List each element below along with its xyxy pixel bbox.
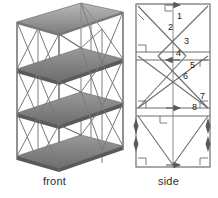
label-1: 1 <box>177 12 182 21</box>
caption-side: side <box>158 175 179 187</box>
hatch-right-icon <box>200 6 208 14</box>
vertical-arrow-markers <box>134 118 211 152</box>
label-4: 4 <box>176 49 181 58</box>
label-3: 3 <box>184 37 189 46</box>
label-7: 7 <box>200 92 205 101</box>
figure-container: 1 2 3 4 5 6 7 8 front side <box>0 0 218 198</box>
caption-front: front <box>43 175 66 187</box>
label-6: 6 <box>183 72 188 81</box>
front-rack-group <box>17 3 123 172</box>
label-5: 5 <box>190 61 195 70</box>
label-2: 2 <box>168 23 173 32</box>
label-8: 8 <box>192 103 197 112</box>
front-view-drawing <box>0 0 218 198</box>
